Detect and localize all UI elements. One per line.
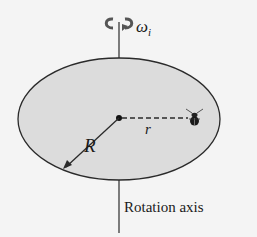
omega-label: ωi	[136, 17, 151, 38]
rotation-axis-label: Rotation axis	[124, 199, 204, 215]
rotating-disk-diagram: ωi R r Rotation axis	[0, 0, 257, 237]
radius-r-label: r	[145, 121, 151, 137]
radius-R-label: R	[83, 135, 96, 156]
